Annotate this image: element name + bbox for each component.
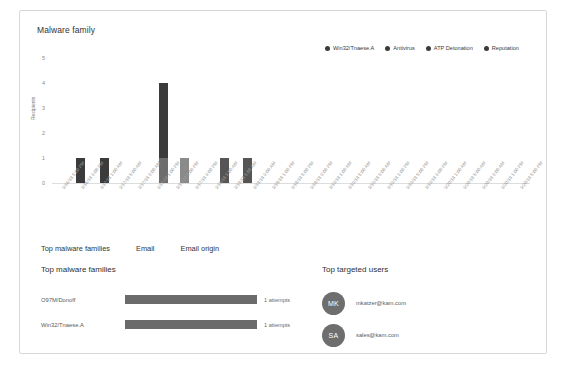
y-axis-tick: 5 bbox=[42, 55, 45, 61]
legend-item[interactable]: Win32/Tnaese.A bbox=[325, 45, 374, 51]
legend-item[interactable]: Antivirus bbox=[385, 45, 414, 51]
chart-y-axis-label: Recipients bbox=[30, 97, 36, 120]
legend-label: ATP Detonation bbox=[434, 45, 473, 51]
chart-x-axis-labels: 9/16/18 5:00 PM9/16/18 9:00 PM9/17/18 1:… bbox=[52, 185, 530, 230]
legend-swatch-icon bbox=[484, 46, 489, 51]
malware-family-row[interactable]: O97M/Donoff1 attempts bbox=[41, 287, 311, 312]
top-targeted-users-heading: Top targeted users bbox=[322, 265, 532, 274]
chart-bar[interactable] bbox=[159, 83, 168, 183]
legend-swatch-icon bbox=[426, 46, 431, 51]
malware-family-name: Win32/Tnaese.A bbox=[41, 322, 125, 328]
legend-swatch-icon bbox=[325, 46, 330, 51]
targeted-user-row[interactable]: SAsales@kam.com bbox=[322, 319, 532, 351]
y-axis-tick: 3 bbox=[42, 105, 45, 111]
chart-bar-segment bbox=[159, 83, 168, 158]
malware-family-bar-track bbox=[125, 295, 257, 304]
malware-family-count: 1 attempts bbox=[264, 297, 290, 303]
y-axis-tick: 2 bbox=[42, 130, 45, 136]
malware-family-bar bbox=[125, 295, 257, 304]
legend-label: Antivirus bbox=[393, 45, 414, 51]
malware-family-bar bbox=[125, 320, 257, 329]
dashboard-root: Malware family Win32/Tnaese.AAntivirusAT… bbox=[0, 0, 564, 366]
targeted-user-row[interactable]: MKmkatzer@kam.com bbox=[322, 287, 532, 319]
targeted-user-email: mkatzer@kam.com bbox=[356, 300, 406, 306]
legend-swatch-icon bbox=[385, 46, 390, 51]
avatar: SA bbox=[322, 324, 345, 347]
legend-label: Win32/Tnaese.A bbox=[333, 45, 374, 51]
tab-top-malware-families[interactable]: Top malware families bbox=[41, 244, 110, 253]
y-axis-tick: 0 bbox=[42, 180, 45, 186]
tab-email-origin[interactable]: Email origin bbox=[181, 244, 220, 253]
y-axis-tick: 1 bbox=[42, 155, 45, 161]
chart-legend: Win32/Tnaese.AAntivirusATP DetonationRep… bbox=[325, 45, 519, 51]
targeted-user-email: sales@kam.com bbox=[356, 332, 399, 338]
malware-family-row[interactable]: Win32/Tnaese.A1 attempts bbox=[41, 312, 311, 337]
legend-label: Reputation bbox=[492, 45, 519, 51]
y-axis-tick: 4 bbox=[42, 80, 45, 86]
tab-email[interactable]: Email bbox=[136, 244, 154, 253]
top-targeted-users-section: Top targeted users MKmkatzer@kam.comSAsa… bbox=[322, 265, 532, 351]
chart-title: Malware family bbox=[37, 25, 95, 35]
avatar: MK bbox=[322, 292, 345, 315]
malware-family-name: O97M/Donoff bbox=[41, 297, 125, 303]
top-malware-families-section: Top malware families O97M/Donoff1 attemp… bbox=[41, 265, 311, 337]
legend-item[interactable]: ATP Detonation bbox=[426, 45, 473, 51]
section-tabs: Top malware familiesEmailEmail origin bbox=[41, 244, 219, 253]
legend-item[interactable]: Reputation bbox=[484, 45, 519, 51]
malware-family-bar-track bbox=[125, 320, 257, 329]
top-malware-families-heading: Top malware families bbox=[41, 265, 311, 274]
chart-y-axis: 012345 bbox=[0, 58, 52, 183]
malware-family-count: 1 attempts bbox=[264, 322, 290, 328]
